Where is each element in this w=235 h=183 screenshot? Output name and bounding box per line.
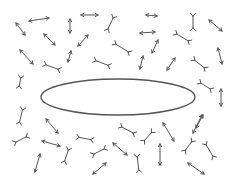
- double-y-bone-icon: [203, 141, 217, 160]
- double-y-bone-icon: [112, 41, 132, 56]
- double-y-bone-icon: [12, 133, 29, 145]
- central-ellipse: [41, 79, 195, 115]
- double-arrow-icon: [29, 17, 49, 22]
- double-arrow-icon: [93, 163, 106, 174]
- double-y-bone-icon: [134, 154, 141, 173]
- double-arrow-icon: [158, 144, 161, 165]
- diagram-canvas: [0, 0, 235, 183]
- double-y-bone-icon: [182, 138, 196, 154]
- double-arrow-icon: [67, 51, 72, 62]
- double-y-bone-icon: [173, 31, 192, 45]
- double-arrow-icon: [209, 20, 222, 31]
- double-arrow-icon: [152, 40, 159, 53]
- double-arrow-icon: [68, 19, 71, 33]
- double-arrow-icon: [219, 89, 222, 106]
- double-y-bone-icon: [118, 123, 136, 136]
- double-arrow-icon: [113, 143, 127, 155]
- double-y-bone-icon: [141, 129, 156, 144]
- double-y-bone-icon: [16, 107, 25, 125]
- double-y-bone-icon: [61, 147, 71, 165]
- double-arrow-icon: [20, 50, 33, 64]
- double-arrow-icon: [217, 48, 223, 64]
- double-arrow-icon: [163, 123, 174, 141]
- double-arrow-icon: [167, 58, 175, 70]
- double-y-bone-icon: [16, 75, 23, 89]
- double-arrow-icon: [34, 154, 41, 172]
- double-arrow-icon: [78, 35, 88, 46]
- double-y-bone-icon: [197, 80, 214, 93]
- double-arrow-group: [16, 13, 223, 174]
- double-y-bone-icon: [93, 57, 112, 68]
- double-arrow-icon: [81, 13, 98, 16]
- double-y-bone-icon: [43, 61, 62, 72]
- double-arrow-icon: [46, 119, 58, 133]
- double-arrow-icon: [16, 23, 25, 35]
- diagram-svg: [0, 0, 235, 183]
- double-y-bone-icon: [191, 57, 208, 72]
- double-arrow-icon: [140, 31, 155, 35]
- double-y-bone-icon: [90, 145, 107, 157]
- double-y-bone-icon: [76, 134, 94, 142]
- double-arrow-icon: [188, 163, 204, 174]
- double-arrow-icon: [42, 140, 60, 147]
- double-arrow-icon: [44, 34, 55, 45]
- double-arrow-icon: [193, 115, 203, 133]
- double-y-bone-icon: [104, 14, 116, 32]
- double-arrow-icon: [139, 56, 144, 69]
- double-y-bone-icon: [190, 14, 195, 31]
- double-arrow-icon: [146, 14, 157, 18]
